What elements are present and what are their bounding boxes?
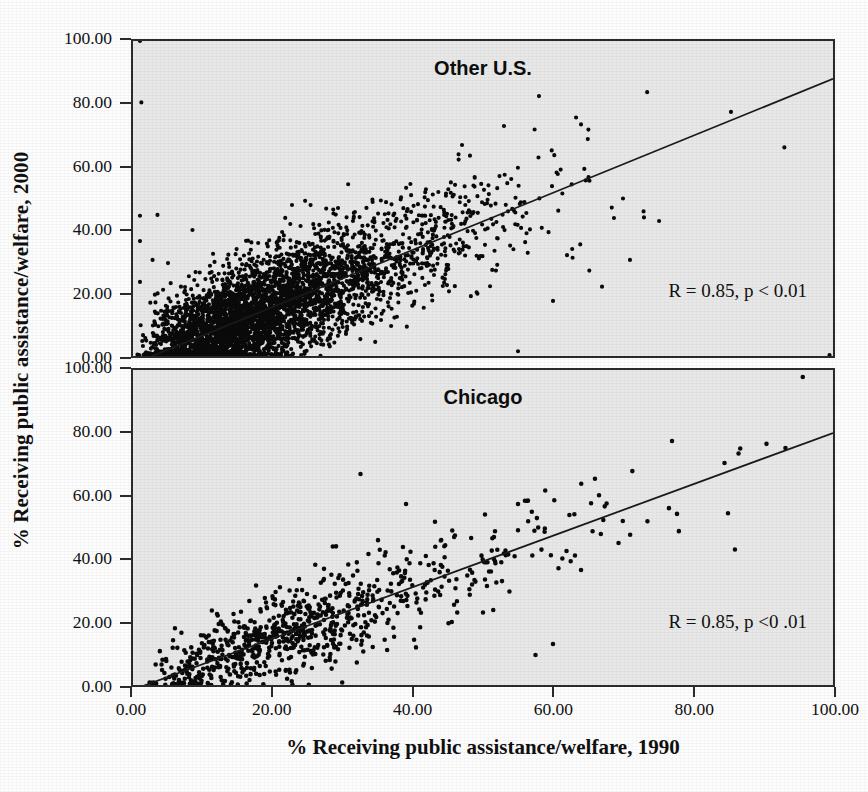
y-tick-mark (120, 229, 131, 231)
scatter-plot-other-us (133, 41, 833, 356)
y-tick-mark (120, 367, 131, 369)
y-tick-mark (120, 558, 131, 560)
x-tick-mark (130, 687, 132, 697)
scatter-plot-chicago (133, 370, 833, 685)
scatter-points (147, 375, 805, 685)
scatter-figure: % Receiving public assistance/welfare, 2… (0, 0, 868, 792)
x-tick-mark (271, 687, 273, 697)
x-tick-mark (693, 687, 695, 697)
x-tick-label: 0.00 (86, 699, 176, 720)
y-tick-label: 20.00 (20, 612, 112, 633)
y-tick-mark (120, 293, 131, 295)
y-tick-label: 80.00 (20, 421, 112, 442)
panel-chicago: Chicago R = 0.85, p <0 .01 (131, 368, 835, 687)
y-tick-label: 20.00 (20, 283, 112, 304)
panel-other-us: Other U.S. R = 0.85, p < 0.01 (131, 39, 835, 358)
y-tick-label: 100.00 (20, 357, 112, 378)
y-tick-mark (120, 495, 131, 497)
x-tick-mark (412, 687, 414, 697)
x-tick-label: 20.00 (227, 699, 317, 720)
y-tick-mark (120, 102, 131, 104)
x-tick-mark (834, 687, 836, 697)
x-tick-label: 40.00 (368, 699, 458, 720)
y-tick-mark (120, 357, 131, 359)
y-tick-label: 40.00 (20, 219, 112, 240)
y-tick-mark (120, 166, 131, 168)
y-tick-label: 100.00 (20, 28, 112, 49)
scatter-points (135, 41, 831, 356)
y-tick-label: 40.00 (20, 548, 112, 569)
y-tick-mark (120, 38, 131, 40)
y-tick-mark (120, 431, 131, 433)
y-tick-label: 60.00 (20, 485, 112, 506)
x-axis-label: % Receiving public assistance/welfare, 1… (131, 735, 835, 760)
x-tick-label: 100.00 (790, 699, 868, 720)
x-tick-label: 60.00 (508, 699, 598, 720)
y-tick-label: 60.00 (20, 156, 112, 177)
y-tick-label: 0.00 (20, 676, 112, 697)
y-tick-label: 80.00 (20, 92, 112, 113)
x-tick-label: 80.00 (649, 699, 739, 720)
y-tick-mark (120, 622, 131, 624)
x-tick-mark (552, 687, 554, 697)
